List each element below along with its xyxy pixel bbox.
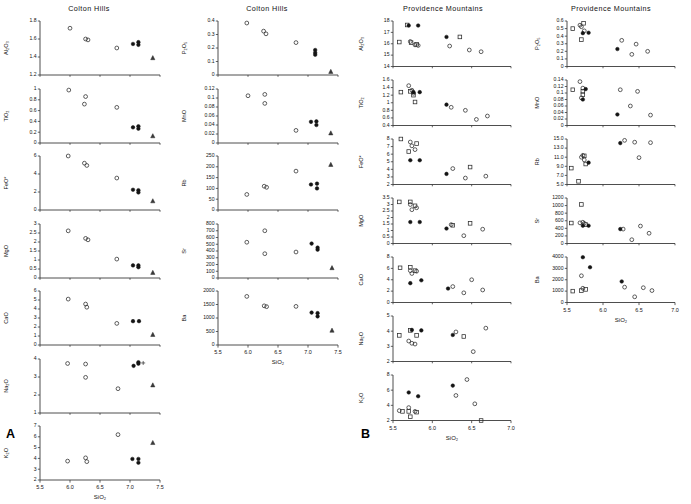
svg-text:6.0: 6.0 — [599, 307, 607, 313]
svg-text:TiO₂: TiO₂ — [3, 110, 9, 121]
svg-text:0: 0 — [212, 71, 215, 77]
subplot-ba: 05001000150020005.56.06.57.07.5BaSiO₂ — [178, 288, 356, 374]
svg-text:500: 500 — [206, 328, 215, 334]
svg-text:0.4: 0.4 — [207, 17, 214, 23]
svg-text:CaO: CaO — [358, 273, 364, 285]
svg-text:1: 1 — [34, 256, 37, 262]
svg-text:0: 0 — [34, 206, 37, 212]
svg-text:1.5: 1.5 — [29, 247, 36, 253]
svg-text:0.4: 0.4 — [556, 33, 563, 39]
svg-text:250: 250 — [206, 152, 215, 158]
svg-text:7.5: 7.5 — [156, 484, 164, 490]
chart-title: Providence Mountains — [531, 4, 691, 13]
svg-text:0.2: 0.2 — [207, 44, 214, 50]
svg-text:1: 1 — [387, 227, 390, 233]
svg-text:6.5: 6.5 — [635, 307, 643, 313]
svg-text:0.6: 0.6 — [556, 17, 563, 23]
subplot-rb: 050100150200250Rb — [178, 153, 356, 217]
svg-text:MnO: MnO — [181, 109, 187, 122]
svg-text:0: 0 — [212, 341, 215, 347]
subplot-mno: 00.020.040.060.080.10.12MnO — [178, 86, 356, 150]
svg-text:6: 6 — [34, 433, 37, 439]
svg-text:0.3: 0.3 — [556, 40, 563, 46]
svg-text:1000: 1000 — [552, 287, 563, 293]
svg-text:0.5: 0.5 — [556, 25, 563, 31]
svg-text:MnO: MnO — [534, 96, 540, 109]
svg-text:7.0: 7.0 — [304, 349, 312, 355]
svg-text:0.14: 0.14 — [554, 76, 564, 82]
svg-text:0: 0 — [387, 299, 390, 305]
svg-text:0.12: 0.12 — [205, 85, 215, 91]
svg-text:0.2: 0.2 — [29, 128, 36, 134]
svg-text:1.4: 1.4 — [29, 53, 36, 59]
svg-text:0: 0 — [561, 63, 564, 69]
svg-text:0: 0 — [212, 274, 215, 280]
svg-text:0.3: 0.3 — [207, 31, 214, 37]
svg-text:2: 2 — [34, 238, 37, 244]
svg-text:8: 8 — [387, 371, 390, 377]
svg-text:1: 1 — [387, 99, 390, 105]
svg-text:Al₂O₃: Al₂O₃ — [3, 41, 9, 55]
svg-text:FeO*: FeO* — [3, 176, 9, 190]
svg-text:6: 6 — [34, 152, 37, 158]
svg-text:4: 4 — [387, 402, 390, 408]
svg-text:Rb: Rb — [181, 179, 187, 186]
svg-text:0.4: 0.4 — [382, 122, 389, 128]
svg-text:6: 6 — [387, 265, 390, 271]
svg-text:17: 17 — [384, 29, 390, 35]
svg-text:4: 4 — [387, 328, 390, 334]
svg-text:0.1: 0.1 — [556, 55, 563, 61]
svg-text:3: 3 — [387, 173, 390, 179]
svg-text:3: 3 — [34, 314, 37, 320]
svg-text:0.8: 0.8 — [29, 96, 36, 102]
svg-text:0.04: 0.04 — [205, 121, 215, 127]
svg-text:0.04: 0.04 — [554, 109, 564, 115]
svg-text:5.5: 5.5 — [389, 425, 397, 431]
chart-column-colton-hills-major: Colton Hills1.21.41.61.8Al₂O₃00.20.40.60… — [0, 0, 178, 457]
svg-text:CaO: CaO — [3, 312, 9, 324]
svg-text:0.1: 0.1 — [207, 94, 214, 100]
svg-text:3.5: 3.5 — [382, 194, 389, 200]
svg-text:7.0: 7.0 — [671, 307, 679, 313]
svg-text:5.0: 5.0 — [556, 181, 563, 187]
subplot-cao: 02468CaO — [355, 254, 531, 310]
svg-text:2.5: 2.5 — [29, 229, 36, 235]
chart-title: Colton Hills — [0, 4, 178, 13]
subplot-mgo: 00.511.522.533.5MgO — [355, 195, 531, 251]
svg-text:0.1: 0.1 — [207, 58, 214, 64]
svg-text:Ba: Ba — [181, 314, 187, 322]
svg-text:6: 6 — [387, 387, 390, 393]
svg-text:50: 50 — [209, 196, 215, 202]
svg-text:4000: 4000 — [552, 253, 563, 259]
svg-text:4: 4 — [387, 276, 390, 282]
chart-title: Providence Mountains — [355, 4, 531, 13]
svg-text:6: 6 — [387, 151, 390, 157]
svg-text:P₂O₅: P₂O₅ — [181, 42, 187, 55]
svg-text:5.5: 5.5 — [36, 484, 44, 490]
svg-text:6.0: 6.0 — [429, 425, 437, 431]
svg-text:1: 1 — [34, 332, 37, 338]
subplot-al2o3: 1.21.41.61.8Al₂O₃ — [0, 18, 178, 82]
svg-text:15.0: 15.0 — [554, 135, 564, 141]
svg-text:0: 0 — [212, 139, 215, 145]
subplot-feo: 0246FeO* — [0, 153, 178, 217]
svg-text:2: 2 — [34, 323, 37, 329]
svg-text:5.5: 5.5 — [563, 307, 571, 313]
subplot-na2o: 2345Na₂O — [355, 313, 531, 369]
svg-text:SiO₂: SiO₂ — [446, 435, 459, 441]
svg-text:K₂O: K₂O — [358, 392, 364, 403]
svg-text:FeO*: FeO* — [358, 154, 364, 168]
svg-text:700: 700 — [206, 227, 215, 233]
svg-text:15: 15 — [384, 51, 390, 57]
svg-text:2: 2 — [387, 287, 390, 293]
svg-text:3: 3 — [34, 220, 37, 226]
svg-text:0.06: 0.06 — [554, 102, 564, 108]
svg-text:5: 5 — [387, 312, 390, 318]
svg-text:TiO₂: TiO₂ — [358, 97, 364, 108]
subplot-k2o: 24685.56.06.57.0K₂OSiO₂ — [355, 372, 531, 450]
svg-text:2.5: 2.5 — [382, 207, 389, 213]
svg-text:7: 7 — [387, 143, 390, 149]
svg-text:9.0: 9.0 — [556, 163, 563, 169]
svg-text:0.08: 0.08 — [205, 103, 215, 109]
svg-text:1000: 1000 — [203, 314, 214, 320]
